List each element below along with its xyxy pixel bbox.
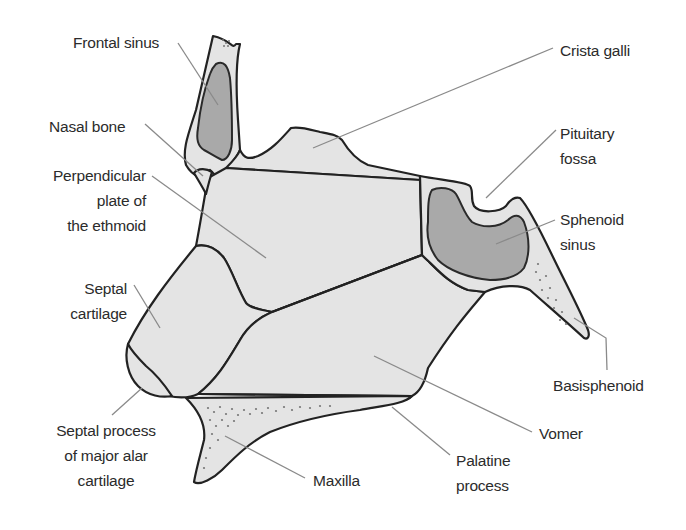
leader-pituitary-fossa <box>486 130 556 198</box>
label-pituitary-fossa: Pituitary fossa <box>560 121 614 171</box>
label-frontal-sinus: Frontal sinus <box>73 30 159 55</box>
label-vomer: Vomer <box>539 421 583 446</box>
label-maxilla: Maxilla <box>313 468 360 493</box>
label-sphenoid-sinus: Sphenoid sinus <box>560 207 624 257</box>
leader-maxilla <box>225 436 305 478</box>
label-septal-process: Septal process of major alar cartilage <box>40 418 172 493</box>
leader-palatine-process <box>392 407 450 455</box>
label-basisphenoid: Basisphenoid <box>553 373 644 398</box>
leader-crista-galli <box>313 48 553 148</box>
label-nasal-bone: Nasal bone <box>49 114 125 139</box>
label-septal-cartilage: Septal cartilage <box>40 276 127 326</box>
label-crista-galli: Crista galli <box>560 38 630 63</box>
leader-septal-process <box>112 388 142 415</box>
maxilla-shape <box>186 396 412 483</box>
label-palatine-process: Palatine process <box>456 448 510 498</box>
label-perpendicular-plate: Perpendicular plate of the ethmoid <box>30 163 146 238</box>
